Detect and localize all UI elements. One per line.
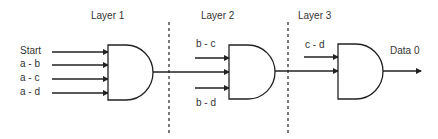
input-label-c-d: c - d (305, 39, 324, 51)
layer-1-label: Layer 1 (91, 10, 124, 22)
input-label-b-d: b - d (196, 97, 216, 109)
and-gate-2 (229, 45, 275, 99)
layer-3-label: Layer 3 (298, 10, 331, 22)
input-label-a-d: a - d (20, 86, 40, 98)
input-label-b-c: b - c (196, 38, 215, 50)
input-label-start: Start (20, 45, 41, 57)
and-gate-1 (108, 45, 153, 100)
output-label-data0: Data 0 (390, 45, 419, 57)
input-label-a-b: a - b (20, 58, 40, 70)
input-label-a-c: a - c (20, 72, 39, 84)
layer-2-label: Layer 2 (201, 10, 234, 22)
and-gate-3 (338, 44, 383, 99)
